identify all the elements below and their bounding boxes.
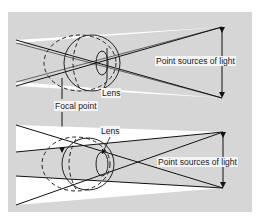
focal-point-label: Focal point bbox=[54, 101, 98, 111]
eye-focus-diagram bbox=[0, 0, 263, 221]
top-lens-label: Lens bbox=[101, 88, 121, 98]
bottom-sources-label: Point sources of light bbox=[157, 157, 238, 167]
bottom-lens-icon bbox=[96, 152, 108, 176]
bottom-beam-lower bbox=[16, 176, 223, 205]
top-eye-dashed bbox=[44, 35, 116, 91]
bottom-lens-label: Lens bbox=[100, 126, 120, 136]
top-sources-label: Point sources of light bbox=[155, 56, 236, 66]
